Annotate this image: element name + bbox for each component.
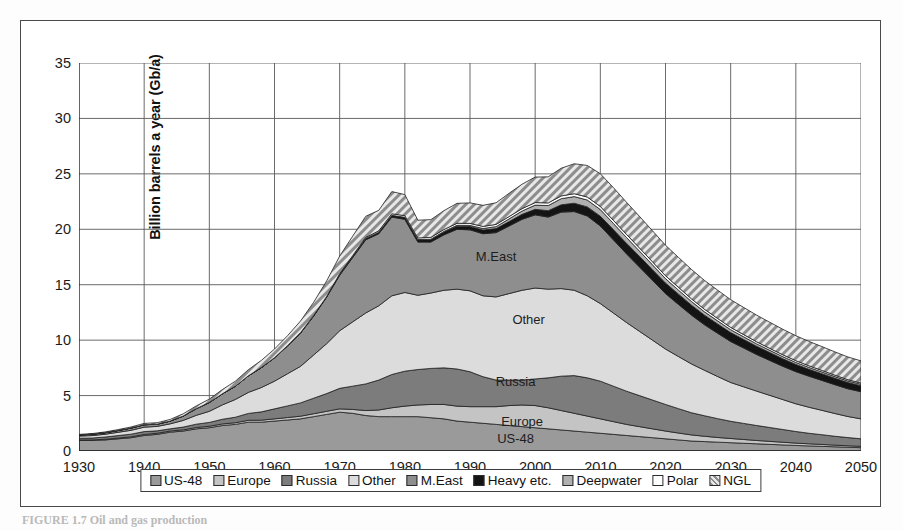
figure-caption: FIGURE 1.7 Oil and gas production bbox=[22, 513, 207, 531]
legend-swatch-icon bbox=[474, 475, 485, 486]
legend-swatch-icon bbox=[348, 475, 359, 486]
y-tick-label: 35 bbox=[55, 55, 71, 71]
legend-label: Deepwater bbox=[577, 474, 642, 488]
x-tick-label: 1930 bbox=[63, 459, 95, 475]
legend-swatch-icon bbox=[282, 475, 293, 486]
legend-entry-ngl[interactable]: NGL bbox=[709, 474, 751, 488]
y-tick-label: 15 bbox=[55, 277, 71, 293]
legend-entry-m-east[interactable]: M.East bbox=[407, 474, 463, 488]
legend-entry-other[interactable]: Other bbox=[348, 474, 396, 488]
legend-label: NGL bbox=[723, 474, 751, 488]
legend-label: Heavy etc. bbox=[488, 474, 552, 488]
legend-entry-russia[interactable]: Russia bbox=[282, 474, 337, 488]
legend-label: M.East bbox=[421, 474, 463, 488]
legend-entry-heavy-etc-[interactable]: Heavy etc. bbox=[474, 474, 552, 488]
y-tick-label: 30 bbox=[55, 110, 71, 126]
x-tick-label: 2040 bbox=[780, 459, 812, 475]
chart-legend: US-48EuropeRussiaOtherM.EastHeavy etc.De… bbox=[140, 469, 761, 493]
legend-entry-us-48[interactable]: US-48 bbox=[150, 474, 202, 488]
y-tick-label: 25 bbox=[55, 166, 71, 182]
legend-swatch-icon bbox=[213, 475, 224, 486]
legend-entry-europe[interactable]: Europe bbox=[213, 474, 271, 488]
legend-label: Polar bbox=[667, 474, 699, 488]
y-tick-label: 20 bbox=[55, 221, 71, 237]
legend-label: Other bbox=[362, 474, 396, 488]
y-tick-label: 5 bbox=[63, 388, 71, 404]
legend-entry-deepwater[interactable]: Deepwater bbox=[563, 474, 642, 488]
figure-frame: Billion barrels a year (Gb/a) 0510152025… bbox=[20, 20, 881, 507]
legend-entry-polar[interactable]: Polar bbox=[653, 474, 699, 488]
legend-swatch-icon bbox=[407, 475, 418, 486]
legend-swatch-icon bbox=[653, 475, 664, 486]
legend-label: Europe bbox=[227, 474, 271, 488]
y-tick-label: 0 bbox=[63, 443, 71, 459]
y-tick-label: 10 bbox=[55, 332, 71, 348]
legend-swatch-icon bbox=[150, 475, 161, 486]
series-areas bbox=[79, 164, 861, 451]
plot-area: 05101520253035 1930194019501960197019801… bbox=[79, 63, 861, 451]
x-tick-label: 2050 bbox=[845, 459, 877, 475]
legend-label: US-48 bbox=[164, 474, 202, 488]
legend-swatch-icon bbox=[709, 475, 720, 486]
legend-swatch-icon bbox=[563, 475, 574, 486]
legend-label: Russia bbox=[296, 474, 337, 488]
stacked-area-chart bbox=[79, 63, 861, 451]
